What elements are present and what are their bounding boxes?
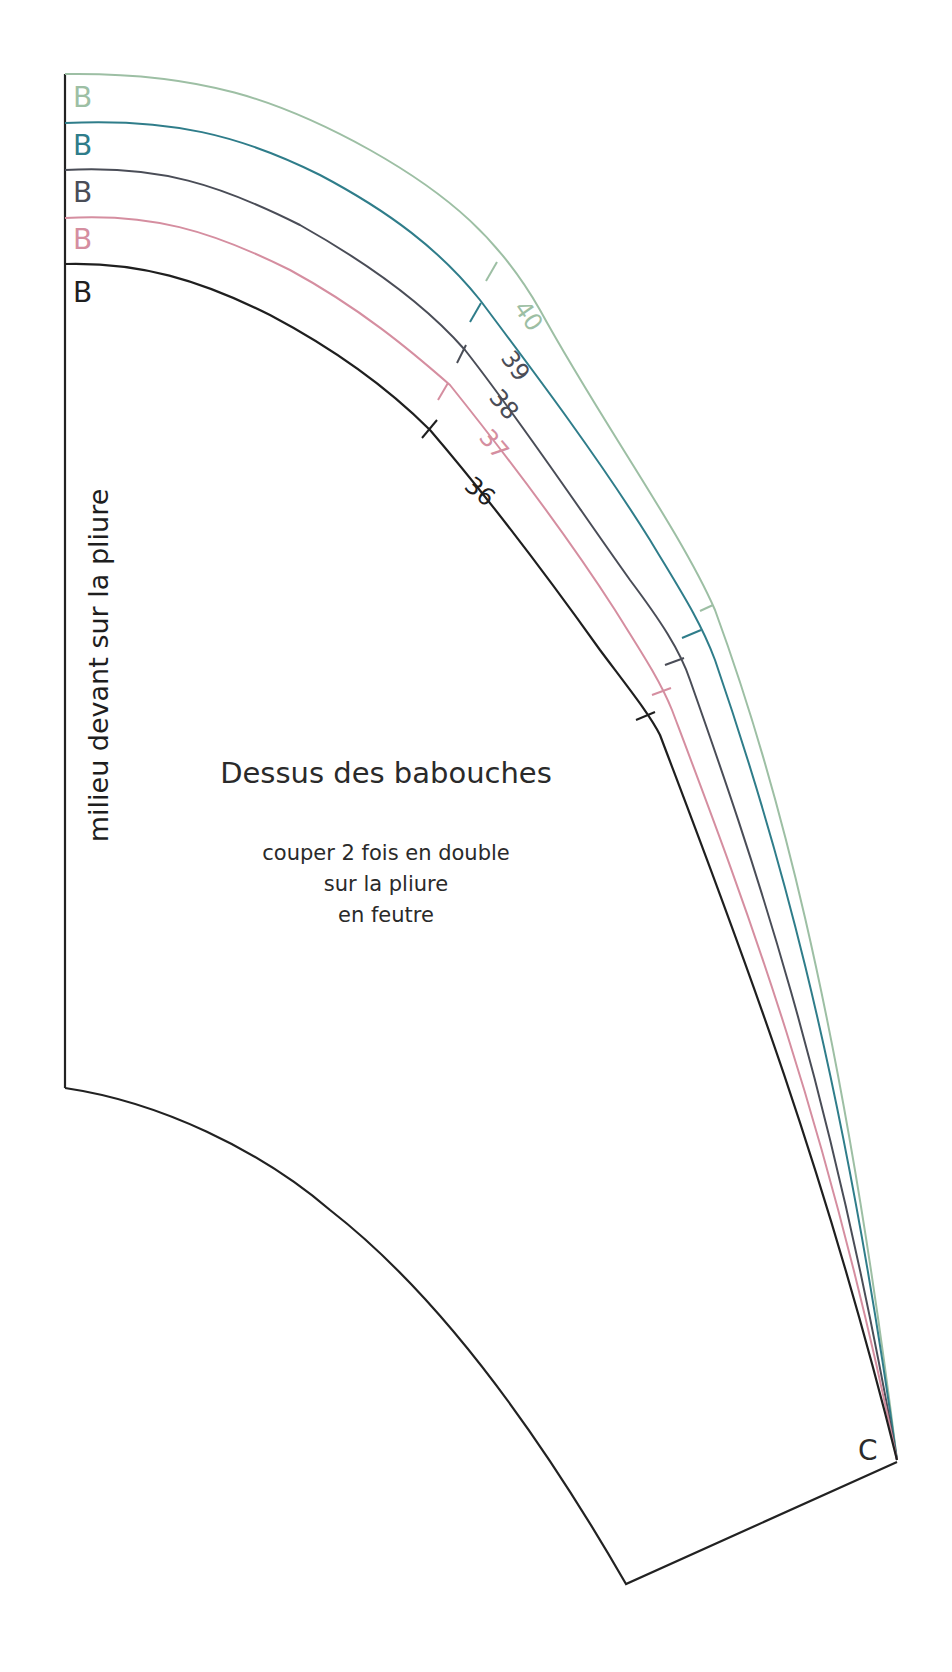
size-label-40: 40 <box>508 295 548 336</box>
size-39-tick <box>470 303 481 322</box>
size-40-tick <box>486 262 497 281</box>
fold-line-label: milieu devant sur la pliure <box>83 456 114 876</box>
point-b-36: B <box>73 276 92 309</box>
point-b-39: B <box>73 129 92 162</box>
size-label-39: 39 <box>495 345 535 386</box>
instruction-line-2: sur la pliure <box>0 869 772 900</box>
instruction-line-1: couper 2 fois en double <box>0 838 772 869</box>
instruction-line-3: en feutre <box>0 900 772 931</box>
size-39-tick-lower <box>682 630 701 638</box>
cutting-instructions: couper 2 fois en double sur la pliure en… <box>0 838 772 931</box>
point-b-40: B <box>73 81 92 114</box>
corner-c-label: C <box>858 1434 878 1467</box>
bottom-curve <box>65 1088 897 1584</box>
point-b-37: B <box>73 223 92 256</box>
size-38-curve <box>65 169 897 1460</box>
pattern-drawing: B B B B B 40 39 38 37 36 C <box>0 0 952 1672</box>
size-label-36: 36 <box>459 471 500 512</box>
size-38-tick <box>457 345 466 363</box>
size-38-tick-lower <box>665 658 684 665</box>
size-37-tick <box>438 383 448 400</box>
point-b-38: B <box>73 176 92 209</box>
pattern-title: Dessus des babouches <box>0 756 772 790</box>
size-40-tick-lower <box>700 605 713 611</box>
size-label-38: 38 <box>483 384 524 425</box>
